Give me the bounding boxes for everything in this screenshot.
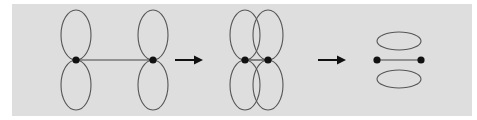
atom-nucleus	[373, 56, 380, 63]
orbital-overlap-diagram	[0, 0, 477, 120]
atom-nucleus	[72, 56, 79, 63]
atom-nucleus	[241, 56, 248, 63]
atom-nucleus	[417, 56, 424, 63]
diagram-svg	[0, 0, 477, 120]
atom-nucleus	[149, 56, 156, 63]
atom-nucleus	[264, 56, 271, 63]
